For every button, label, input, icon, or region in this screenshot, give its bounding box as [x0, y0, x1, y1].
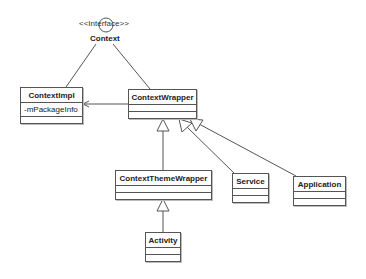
class-methods-section: [116, 193, 211, 199]
class-attributes-section: [294, 192, 345, 199]
class-name: Service: [233, 174, 268, 189]
interface-stereotype: <<Interface>>: [79, 19, 129, 28]
class-methods-section: [146, 255, 180, 261]
class-activity[interactable]: Activity: [145, 232, 181, 262]
edge-contextwrapper-context: [113, 44, 150, 89]
class-attributes-section: [233, 189, 268, 196]
class-contextwrapper[interactable]: ContextWrapper: [128, 89, 197, 119]
class-name: ContextThemeWrapper: [116, 171, 211, 186]
class-name: ContextWrapper: [129, 90, 196, 105]
class-methods-section: [294, 199, 345, 205]
generalization-triangle-icon: [157, 119, 169, 131]
interface-name: Context: [90, 34, 120, 43]
class-attributes-section: [146, 248, 180, 255]
class-contextthemewrapper[interactable]: ContextThemeWrapper: [115, 170, 212, 200]
edge-contextimpl-context: [66, 44, 96, 87]
class-name: ContextImpl: [21, 88, 82, 103]
class-methods-section: [129, 112, 196, 118]
class-contextimpl[interactable]: ContextImpl -mPackageInfo: [20, 87, 83, 124]
class-attributes-section: [129, 105, 196, 112]
class-methods-section: [233, 196, 268, 202]
class-name: Application: [294, 177, 345, 192]
diagram-edges: [0, 0, 366, 279]
class-service[interactable]: Service: [232, 173, 269, 203]
class-attributes-section: [116, 186, 211, 193]
class-methods-section: [21, 117, 82, 123]
generalization-triangle-icon: [157, 199, 169, 211]
class-application[interactable]: Application: [293, 176, 346, 206]
class-attribute: -mPackageInfo: [21, 103, 82, 117]
class-name: Activity: [146, 233, 180, 248]
